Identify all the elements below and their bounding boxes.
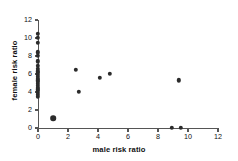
y-axis-tick-label: 0 [18, 124, 32, 131]
data-point [36, 40, 40, 44]
y-axis-title: female risk ratio [10, 16, 19, 126]
data-point [73, 67, 77, 71]
x-axis-tick-label: 2 [61, 133, 75, 140]
data-point [108, 72, 112, 76]
y-axis-tick-label: 6 [18, 70, 32, 77]
data-point [50, 115, 56, 121]
data-point [178, 126, 182, 130]
x-axis-tick-label: 0 [31, 133, 45, 140]
x-axis-tick-label: 6 [121, 133, 135, 140]
x-axis-tick-label: 10 [181, 133, 195, 140]
data-point [36, 54, 40, 58]
data-point [97, 75, 101, 79]
x-axis-title: male risk ratio [0, 145, 238, 154]
y-axis-tick-label: 2 [18, 106, 32, 113]
data-point [169, 126, 173, 130]
x-axis-tick-label: 12 [211, 133, 225, 140]
x-axis-tick-label: 8 [151, 133, 165, 140]
scatter-plot-figure: 024681012024681012 male risk ratio femal… [0, 0, 238, 161]
y-axis-tick-label: 12 [18, 16, 32, 23]
x-axis-tick-label: 4 [91, 133, 105, 140]
y-axis-tick-label: 4 [18, 88, 32, 95]
plot-area [38, 20, 218, 128]
data-point [36, 94, 40, 98]
data-point [76, 90, 80, 94]
data-point [177, 78, 181, 82]
y-axis-tick-label: 8 [18, 52, 32, 59]
y-axis-tick-label: 10 [18, 34, 32, 41]
